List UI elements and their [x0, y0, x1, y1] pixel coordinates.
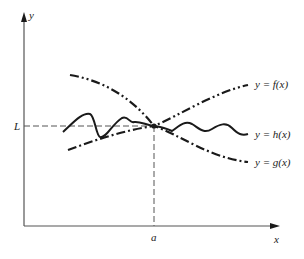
y-axis-label: y — [28, 9, 34, 21]
L-label: L — [13, 120, 20, 132]
curve-g-label: y = g(x) — [254, 156, 291, 169]
y-axis-arrow-icon — [21, 12, 27, 22]
y-axis: y — [21, 9, 34, 226]
squeeze-theorem-diagram: y x L a y = f(x) y = h(x) y = g(x) — [0, 0, 304, 259]
curve-f — [70, 75, 248, 126]
x-axis-arrow-icon — [270, 223, 280, 229]
limit-point — [151, 123, 156, 128]
curve-h-label: y = h(x) — [254, 128, 291, 141]
curve-f-label: y = f(x) — [254, 78, 288, 91]
a-label: a — [151, 231, 157, 243]
x-axis-label: x — [273, 233, 279, 245]
curve-g — [68, 126, 248, 162]
